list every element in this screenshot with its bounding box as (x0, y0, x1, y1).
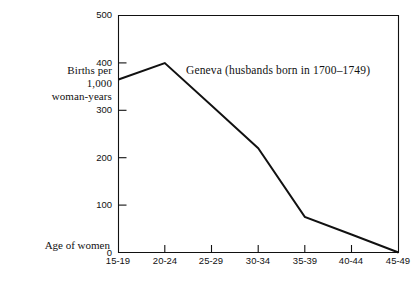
plot-frame (119, 16, 399, 253)
fertility-line-chart-figure: Births per 1,000 woman-years Age of wome… (0, 0, 420, 283)
x-tick-label-20-24: 20-24 (142, 256, 188, 266)
x-tick-label-30-34: 30-34 (235, 256, 281, 266)
x-tick-label-15-19: 15-19 (95, 256, 141, 266)
x-tick-label-40-44: 40-44 (328, 256, 374, 266)
x-tick-label-35-39: 35-39 (282, 256, 328, 266)
chart-plot-area (0, 0, 420, 283)
x-tick-label-45-49: 45-49 (375, 256, 420, 266)
x-tick-label-25-29: 25-29 (188, 256, 234, 266)
series-annotation-label: Geneva (husbands born in 1700–1749) (186, 63, 370, 77)
